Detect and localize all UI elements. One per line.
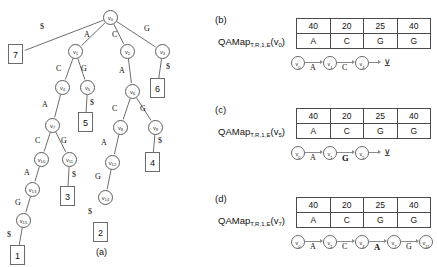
qamap-value-cell: 40 [397, 109, 431, 124]
qamap-value-cell: 40 [297, 19, 331, 34]
tree-leaf-leaf6: 6 [150, 78, 165, 98]
qamap-value-cell: 40 [397, 19, 431, 34]
tree-node-v2: v2 [120, 44, 135, 59]
qamap-label-d: QAMapT,R,1,E(v7) [218, 215, 285, 226]
qamap-value-cell: 25 [364, 109, 398, 124]
qamap-path-d: v0v1v4v7v11ACAG [291, 231, 437, 253]
qamap-table-b: 40202540ACGG [296, 18, 431, 49]
path-arrow-icon [378, 60, 381, 64]
tree-node-v9: v9 [148, 120, 163, 135]
path-node-d-1: v1 [323, 235, 337, 249]
path-edge-label-d-1: C [342, 242, 347, 251]
tree-node-v5: v5 [80, 80, 95, 95]
tree-leaf-leaf3: 3 [60, 186, 75, 206]
tree-edge [128, 59, 131, 83]
path-edge-label-c-0: A [310, 153, 316, 162]
table-row: 40202540 [297, 198, 431, 213]
tree-edge [35, 167, 39, 182]
tree-leaf-leaf2: 2 [93, 222, 108, 242]
tree-leaf-leaf7: 7 [8, 44, 23, 64]
tree-edge [114, 135, 118, 154]
qamap-base-cell: G [364, 34, 398, 49]
figure-caption-a: (a) [96, 247, 107, 257]
qamap-base-cell: A [297, 213, 331, 228]
panel-tag-d: (d) [215, 193, 227, 204]
tree-node-v8: v8 [113, 120, 128, 135]
tree-node-v15: v15 [16, 213, 31, 228]
path-node-b-1: v1 [323, 56, 337, 70]
qamap-path-c: v0v1v5AG⊻ [291, 142, 437, 164]
path-edge-label-d-0: A [310, 242, 316, 251]
tree-edge [86, 95, 87, 112]
tree-edge [65, 59, 73, 80]
tree-edge [153, 135, 154, 152]
panel-tag-b: (b) [215, 14, 227, 25]
tree-edge [55, 95, 61, 118]
tree-edge-label-11: G [140, 104, 146, 113]
path-node-b-2: v4 [355, 56, 369, 70]
qamap-path-b: v0v1v4AC⊻ [291, 52, 437, 74]
tree-edge [159, 59, 162, 78]
table-row: ACGG [297, 34, 431, 49]
qamap-base-cell: A [297, 124, 331, 139]
tree-edge-label-10: C [112, 104, 117, 113]
path-edge-label-b-1: C [342, 63, 347, 72]
tree-edge-label-19: G [15, 198, 21, 207]
qamap-label-b: QAMapT,R,1,E(v0) [218, 36, 285, 47]
qamap-base-cell: G [397, 213, 431, 228]
tree-edge [107, 170, 111, 189]
table-row: ACGG [297, 124, 431, 139]
tree-edge [26, 197, 31, 213]
tree-edge-label-16: A [24, 168, 30, 177]
path-stop-icon: ⊻ [384, 147, 391, 159]
tree-leaf-leaf5: 5 [78, 112, 93, 132]
qamap-label-c: QAMapT,R,1,E(v5) [218, 126, 285, 137]
tree-edge [68, 167, 69, 186]
qamap-table-d: 40202540ACGG [296, 197, 431, 228]
tree-leaf-leaf1: 1 [10, 245, 25, 265]
tree-node-v6: v6 [125, 84, 140, 99]
tree-edge-label-1: A [84, 30, 90, 39]
tree-node-v12: v12 [105, 155, 120, 170]
tree-node-v13: v13 [25, 182, 40, 197]
qamap-value-cell: 20 [330, 19, 364, 34]
path-stop-icon: ⊻ [384, 57, 391, 69]
tree-edge-label-2: C [112, 30, 117, 39]
tree-edge-label-9: $ [90, 98, 94, 107]
tree-edge-label-4: C [56, 64, 61, 73]
path-node-c-0: v0 [291, 146, 305, 160]
tree-edge-label-15: $ [158, 136, 162, 145]
tree-node-v1: v1 [68, 44, 83, 59]
path-node-d-0: v0 [291, 235, 305, 249]
qamap-base-cell: G [364, 124, 398, 139]
panel-tag-c: (c) [215, 104, 226, 115]
tree-node-v3: v3 [155, 44, 170, 59]
path-node-d-3: v7 [387, 235, 401, 249]
table-row: 40202540 [297, 19, 431, 34]
path-edge-label-b-0: A [310, 63, 316, 72]
tree-edge-label-17: $ [72, 170, 76, 179]
path-node-d-4: v11 [419, 235, 433, 249]
path-node-d-2: v4 [355, 235, 369, 249]
qamap-base-cell: G [397, 34, 431, 49]
qamap-base-cell: C [330, 213, 364, 228]
tree-edge-label-12: C [35, 136, 40, 145]
table-row: 40202540 [297, 109, 431, 124]
qamap-base-cell: A [297, 34, 331, 49]
qamap-value-cell: 40 [297, 109, 331, 124]
tree-edge-label-14: A [101, 138, 107, 147]
path-edge-label-d-3: G [406, 242, 412, 251]
tree-node-v10: v10 [34, 152, 49, 167]
path-edge-label-c-1: G [342, 153, 349, 163]
tree-edge-label-21: $ [7, 230, 11, 239]
tree-node-v11: v11 [62, 152, 77, 167]
tree-edge [123, 99, 130, 120]
path-node-b-0: v0 [291, 56, 305, 70]
qamap-value-cell: 25 [364, 198, 398, 213]
qamap-base-cell: C [330, 34, 364, 49]
tree-edge-label-0: $ [40, 22, 44, 31]
tree-edge-label-13: G [61, 136, 67, 145]
qamap-base-cell: G [397, 124, 431, 139]
qamap-value-cell: 20 [330, 198, 364, 213]
qamap-value-cell: 40 [297, 198, 331, 213]
